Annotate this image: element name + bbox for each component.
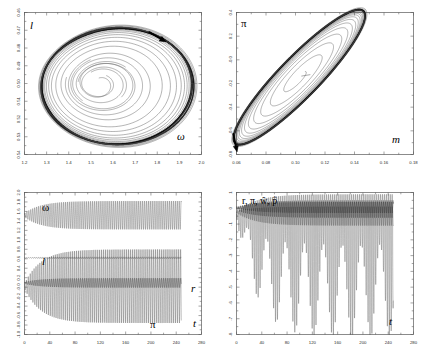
- svg-text:-0.4: -0.4: [16, 302, 21, 310]
- svg-text:-0.2: -0.2: [228, 79, 233, 87]
- svg-text:0.6: 0.6: [16, 255, 21, 262]
- series-label-r: r: [191, 283, 195, 294]
- panel-top-right: 0.060.080.100.120.140.160.18-0.8-0.6-0.4…: [212, 0, 424, 180]
- svg-text:0.10: 0.10: [291, 160, 300, 165]
- svg-text:0.2: 0.2: [228, 33, 233, 40]
- svg-text:1.8: 1.8: [16, 198, 21, 205]
- axes-top-left: [25, 13, 202, 155]
- axis-label-m: m: [392, 134, 400, 145]
- svg-text:1.3: 1.3: [44, 160, 51, 165]
- svg-text:-1: -1: [228, 222, 233, 226]
- svg-text:-0.4: -0.4: [228, 103, 233, 111]
- svg-text:0.51: 0.51: [16, 96, 21, 105]
- svg-text:1.8: 1.8: [154, 160, 161, 165]
- svg-text:-6: -6: [228, 300, 233, 304]
- svg-text:0.50: 0.50: [16, 79, 21, 88]
- svg-text:-5: -5: [228, 285, 233, 289]
- axis-label-omega: ω: [177, 131, 185, 142]
- svg-text:-0.8: -0.8: [228, 150, 233, 158]
- svg-text:280: 280: [198, 340, 206, 345]
- svg-text:-1.0: -1.0: [16, 330, 21, 338]
- svg-text:-0.6: -0.6: [228, 127, 233, 135]
- svg-text:120: 120: [97, 340, 105, 345]
- svg-text:1.6: 1.6: [16, 208, 21, 215]
- svg-text:0.08: 0.08: [262, 160, 271, 165]
- svg-text:0.54: 0.54: [16, 150, 21, 159]
- svg-text:0.52: 0.52: [16, 114, 21, 123]
- svg-text:2.0: 2.0: [16, 189, 21, 196]
- figure-grid: 1.21.31.41.51.61.71.81.92.00.540.530.520…: [0, 0, 424, 360]
- svg-text:0.12: 0.12: [321, 160, 330, 165]
- svg-text:0.18: 0.18: [409, 160, 418, 165]
- svg-text:240: 240: [385, 340, 393, 345]
- panel-bottom-left-plot: 04080120160200240280-1.0-0.8-0.6-0.4-0.2…: [0, 180, 212, 360]
- svg-text:0: 0: [235, 340, 238, 345]
- svg-text:1.4: 1.4: [66, 160, 73, 165]
- trajectory-top-right: [232, 8, 367, 147]
- svg-text:280: 280: [410, 340, 418, 345]
- series-label-pi: π: [150, 319, 156, 330]
- svg-text:1.4: 1.4: [16, 217, 21, 224]
- time-series-bottom-left: [25, 201, 182, 323]
- svg-text:0: 0: [228, 206, 233, 209]
- svg-text:0: 0: [23, 340, 26, 345]
- svg-text:40: 40: [47, 340, 52, 345]
- axis-label-l: l: [30, 20, 33, 31]
- series-label-omega: ω: [42, 202, 49, 213]
- tick-marks-top-right: 0.060.080.100.120.140.160.18-0.8-0.6-0.4…: [228, 9, 419, 165]
- svg-text:0.4: 0.4: [16, 265, 21, 272]
- svg-text:-0.0: -0.0: [228, 56, 233, 64]
- svg-text:1.2: 1.2: [22, 160, 29, 165]
- svg-text:240: 240: [173, 340, 181, 345]
- panel-top-left: 1.21.31.41.51.61.71.81.92.00.540.530.520…: [0, 0, 212, 180]
- svg-text:80: 80: [285, 340, 290, 345]
- svg-text:1.2: 1.2: [16, 227, 21, 234]
- panel-bottom-right: 04080120160200240280-8-7-6-5-4-3-2-101 r…: [212, 180, 424, 360]
- svg-text:0.53: 0.53: [16, 132, 21, 141]
- axis-label-t: t: [193, 318, 196, 329]
- svg-text:200: 200: [359, 340, 367, 345]
- panel-bottom-right-plot: 04080120160200240280-8-7-6-5-4-3-2-101: [212, 180, 424, 360]
- panel-bottom-left: 04080120160200240280-1.0-0.8-0.6-0.4-0.2…: [0, 180, 212, 360]
- svg-text:120: 120: [309, 340, 317, 345]
- svg-text:-0.6: -0.6: [16, 311, 21, 319]
- svg-text:1: 1: [228, 191, 233, 194]
- svg-text:200: 200: [147, 340, 155, 345]
- svg-text:0.8: 0.8: [16, 246, 21, 253]
- series-label-group: r, π, ŵ, p̂: [242, 196, 277, 206]
- axis-label-t: t: [389, 316, 392, 327]
- svg-text:1.6: 1.6: [110, 160, 117, 165]
- svg-text:160: 160: [122, 340, 130, 345]
- svg-text:1.7: 1.7: [132, 160, 139, 165]
- svg-text:0.14: 0.14: [350, 160, 359, 165]
- svg-text:0.2: 0.2: [16, 274, 21, 281]
- axis-label-pi: π: [241, 18, 247, 29]
- svg-text:-0.2: -0.2: [16, 292, 21, 300]
- svg-text:0.48: 0.48: [16, 43, 21, 52]
- series-label-l: l: [42, 256, 45, 267]
- svg-text:1.0: 1.0: [16, 236, 21, 243]
- svg-text:0.06: 0.06: [232, 160, 241, 165]
- svg-text:-3: -3: [228, 253, 233, 257]
- svg-text:1.9: 1.9: [176, 160, 183, 165]
- svg-text:0.4: 0.4: [228, 9, 233, 16]
- svg-text:-2: -2: [228, 237, 233, 241]
- svg-text:80: 80: [73, 340, 78, 345]
- svg-text:-4: -4: [228, 269, 233, 273]
- svg-text:1.5: 1.5: [88, 160, 95, 165]
- svg-text:-0.0: -0.0: [16, 283, 21, 291]
- svg-text:160: 160: [334, 340, 342, 345]
- trajectory-top-left: [39, 25, 197, 147]
- time-series-bottom-right: [237, 194, 394, 334]
- svg-text:0.49: 0.49: [16, 61, 21, 70]
- svg-text:2.0: 2.0: [199, 160, 206, 165]
- svg-text:-8: -8: [228, 332, 233, 336]
- svg-text:40: 40: [259, 340, 264, 345]
- svg-text:-7: -7: [228, 316, 233, 320]
- svg-text:0.16: 0.16: [380, 160, 389, 165]
- svg-text:0.47: 0.47: [16, 25, 21, 34]
- svg-text:0.46: 0.46: [16, 8, 21, 17]
- svg-text:-0.8: -0.8: [16, 321, 21, 329]
